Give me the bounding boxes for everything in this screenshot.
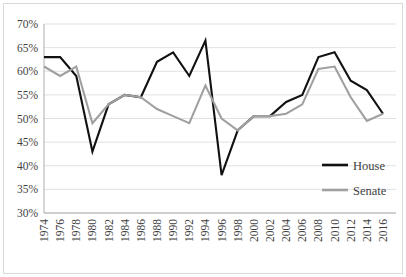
y-tick-label: 65% (17, 42, 39, 54)
legend-item-senate[interactable]: Senate (322, 184, 387, 198)
x-tick-label: 1986 (135, 219, 147, 242)
x-tick-label: 2000 (248, 219, 260, 242)
x-tick-label: 2010 (329, 219, 341, 242)
y-tick-label: 40% (17, 160, 39, 172)
chart-container: 70%65%60%55%50%45%40%35%30% 197419761978… (0, 0, 406, 277)
series-line-senate (44, 67, 383, 131)
x-tick-label: 1990 (167, 219, 179, 242)
x-tick-label: 2008 (312, 219, 324, 242)
y-tick-label: 45% (17, 136, 39, 148)
y-tick-label: 60% (17, 65, 39, 77)
y-tick-label: 70% (17, 18, 39, 30)
x-tick-label: 1982 (103, 219, 115, 242)
x-tick-label: 1984 (119, 219, 131, 242)
series-line-house (44, 41, 383, 176)
x-tick-label: 1980 (86, 219, 98, 242)
chart-legend: HouseSenate (322, 159, 387, 198)
x-axis-tick-labels: 1974197619781980198219841986198819901992… (38, 219, 389, 242)
x-tick-label: 1996 (216, 219, 228, 242)
y-tick-label: 50% (17, 113, 39, 125)
x-tick-label: 1978 (70, 219, 82, 242)
x-tick-label: 1992 (183, 219, 195, 242)
x-tick-label: 2002 (264, 219, 276, 242)
data-series-group (44, 41, 383, 176)
x-tick-label: 2014 (361, 219, 373, 242)
x-tick-label: 2016 (377, 219, 389, 242)
y-tick-label: 30% (17, 207, 39, 219)
x-tick-label: 1998 (232, 219, 244, 242)
legend-item-house[interactable]: House (322, 159, 385, 173)
legend-label: House (353, 159, 385, 173)
y-axis-tick-labels: 70%65%60%55%50%45%40%35%30% (17, 18, 39, 219)
x-tick-label: 1974 (38, 219, 50, 242)
x-tick-label: 1994 (199, 219, 211, 242)
x-tick-label: 1988 (151, 219, 163, 242)
y-tick-label: 35% (17, 183, 39, 195)
y-tick-label: 55% (17, 89, 39, 101)
line-chart-plot: 70%65%60%55%50%45%40%35%30% 197419761978… (0, 0, 406, 277)
x-tick-label: 2012 (345, 219, 357, 242)
x-tick-label: 2004 (280, 219, 292, 242)
x-tick-label: 1976 (54, 219, 66, 242)
legend-label: Senate (353, 184, 387, 198)
x-tick-label: 2006 (296, 219, 308, 242)
